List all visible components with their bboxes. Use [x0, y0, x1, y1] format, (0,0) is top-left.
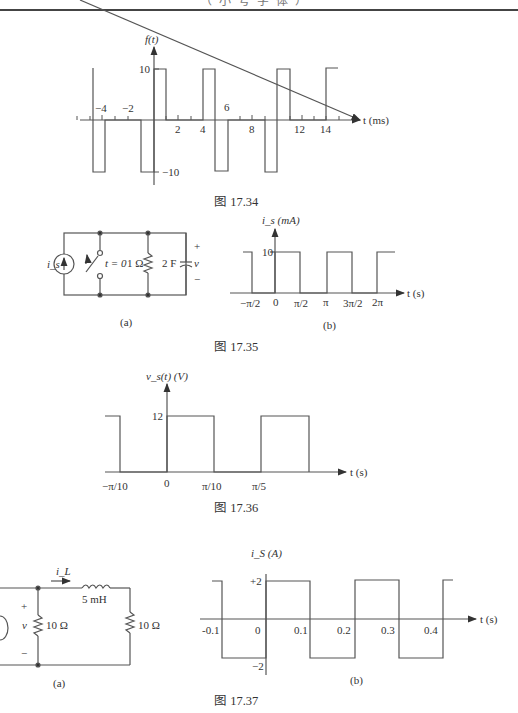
fig-17-34-xtick-14: 14: [320, 123, 332, 135]
fig-17-36-plot: [105, 384, 346, 472]
fig-17-37-sublabel-b: (b): [350, 674, 363, 687]
fig-17-35-source-label: i_s: [47, 258, 60, 270]
fig-17-37-current-label: i_L: [56, 565, 71, 577]
fig-17-34-caption: 图 17.34: [214, 195, 259, 209]
fig-17-37-plus: +: [21, 600, 27, 612]
fig-17-36-ytick-12: 12: [152, 410, 163, 422]
fig-17-34-xtick-8: 8: [249, 123, 255, 135]
fig-17-37-xtick-02: 0.2: [337, 624, 351, 636]
fig-17-37-xtick-neg01: -0.1: [202, 624, 219, 636]
fig-17-36-caption: 图 17.36: [214, 501, 258, 515]
fig-17-36-xtick-0: 0: [164, 477, 170, 489]
fig-17-34-xtick-2: 2: [175, 123, 181, 135]
fig-17-35-ytick-10: 10: [262, 246, 274, 258]
fig-17-35-xtick-pi2: π/2: [294, 297, 308, 309]
fig-17-35-plot: [230, 229, 404, 293]
fig-17-36-x-label: t (s): [350, 466, 368, 479]
fig-17-37-xtick-01: 0.1: [294, 624, 308, 636]
fig-17-35-voltage-label: v: [194, 257, 199, 269]
fig-17-37-y-label: i_S (A): [251, 547, 282, 560]
fig-17-35-xtick-neg-pi2: −π/2: [240, 297, 260, 309]
fig-17-34-ytick-neg10: −10: [162, 166, 180, 178]
fig-17-34-xtick-neg2: −2: [122, 102, 134, 114]
fig-17-37-caption: 图 17.37: [214, 694, 258, 708]
fig-17-35-xtick-pi: π: [323, 296, 329, 308]
fig-17-35-sublabel-b: (b): [323, 319, 336, 332]
fig-17-36-xtick-pi10: π/10: [202, 480, 222, 492]
fig-17-35-minus: −: [194, 273, 200, 285]
fig-17-34-y-label: f(t): [145, 33, 159, 46]
fig-17-37-ytick-neg2: −2: [252, 660, 264, 672]
fig-17-34-ytick-10: 10: [139, 63, 151, 75]
fig-17-36-y-label: v_s(t) (V): [146, 370, 188, 383]
fig-17-37-sublabel-a: (a): [53, 677, 66, 690]
fig-17-35-sublabel-a: (a): [120, 316, 133, 329]
fig-17-35-resistor-label: 1 Ω: [127, 257, 143, 269]
fig-17-35-xtick-0: 0: [273, 296, 279, 308]
fig-17-34-xtick-neg4: −4: [95, 102, 107, 114]
fig-17-37-inductor-label: 5 mH: [82, 593, 107, 605]
fig-17-34-plot: [77, 0, 360, 185]
figures-canvas: f(t) t (ms) 10 −10 −4 −2 6 2 4 8 12 14 i…: [0, 0, 518, 713]
fig-17-35-caption: 图 17.35: [214, 340, 258, 354]
fig-17-37-r1-label: 10 Ω: [46, 619, 68, 631]
fig-17-37-voltage-label: v: [22, 619, 27, 631]
fig-17-36-xtick-neg-pi10: −π/10: [102, 480, 128, 492]
fig-17-35-y-label: i_s (mA): [262, 214, 300, 227]
fig-17-35-x-label: t (s): [407, 287, 425, 300]
fig-17-35-xtick-3pi2: 3π/2: [343, 297, 363, 309]
fig-17-34-xtick-4: 4: [200, 123, 206, 135]
fig-17-35-xtick-2pi: 2π: [372, 296, 384, 308]
fig-17-37-ytick-pos2: +2: [250, 575, 262, 587]
fig-17-37-xtick-03: 0.3: [381, 624, 395, 636]
fig-17-35-plus: +: [194, 240, 200, 252]
fig-17-37-xtick-04: 0.4: [424, 624, 438, 636]
fig-17-35-switch-label: t = 0: [105, 257, 127, 269]
fig-17-37-minus: −: [21, 647, 27, 659]
fig-17-34-xtick-6: 6: [224, 101, 230, 113]
fig-17-36-xtick-pi5: π/5: [252, 480, 267, 492]
fig-17-37-x-label: t (s): [480, 613, 498, 626]
fig-17-35-capacitor-label: 2 F: [162, 257, 176, 269]
fig-17-37-r2-label: 10 Ω: [138, 619, 160, 631]
fig-17-37-xtick-0: 0: [255, 624, 261, 636]
fig-17-34-xtick-12: 12: [294, 123, 305, 135]
fig-17-34-x-label: t (ms): [363, 114, 389, 127]
